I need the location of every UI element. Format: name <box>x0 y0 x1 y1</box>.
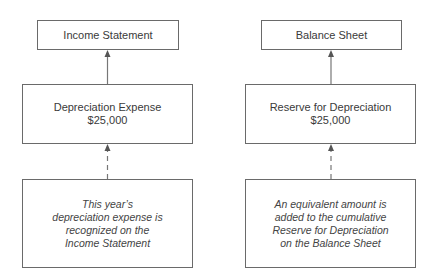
balance-note-box: An equivalent amount is added to the cum… <box>245 179 416 268</box>
income-note-line: This year’s <box>82 198 133 211</box>
income-note-box: This year’s depreciation expense is reco… <box>22 179 193 268</box>
balance-note-line: added to the cumulative <box>275 211 387 224</box>
income-note-line: recognized on the <box>66 224 149 237</box>
balance-note-line: Reserve for Depreciation <box>272 224 388 237</box>
balance-sheet-box: Balance Sheet <box>261 20 402 50</box>
reserve-depreciation-title: Reserve for Depreciation <box>270 101 392 114</box>
depreciation-expense-amount: $25,000 <box>88 114 128 127</box>
solid-arrow-left <box>105 50 111 84</box>
income-statement-label: Income Statement <box>63 29 152 41</box>
dashed-arrow-left <box>105 144 111 179</box>
income-note-line: Income Statement <box>65 237 150 250</box>
income-statement-box: Income Statement <box>37 20 179 50</box>
balance-note-line: on the Balance Sheet <box>280 237 380 250</box>
depreciation-expense-box: Depreciation Expense $25,000 <box>22 84 193 144</box>
solid-arrow-right <box>328 50 334 84</box>
balance-note-line: An equivalent amount is <box>274 198 386 211</box>
reserve-depreciation-amount: $25,000 <box>311 114 351 127</box>
income-note-line: depreciation expense is <box>52 211 162 224</box>
depreciation-expense-title: Depreciation Expense <box>54 101 162 114</box>
reserve-depreciation-box: Reserve for Depreciation $25,000 <box>245 84 416 144</box>
balance-sheet-label: Balance Sheet <box>296 29 368 41</box>
dashed-arrow-right <box>328 144 334 179</box>
